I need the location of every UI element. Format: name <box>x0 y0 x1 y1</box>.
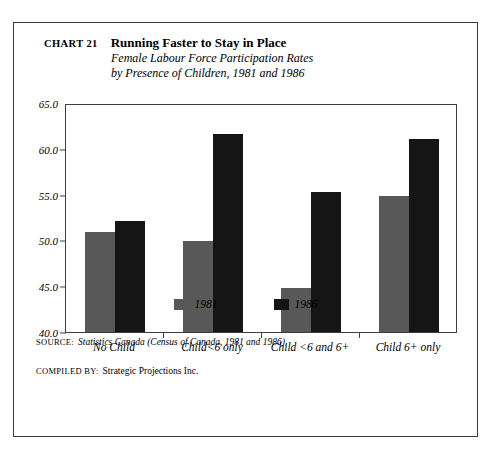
y-axis-tick-mark <box>60 241 66 242</box>
y-axis-tick-label: 60.0 <box>39 144 58 156</box>
y-axis-tick-mark <box>60 195 66 196</box>
y-axis-tick-mark <box>60 149 66 150</box>
chart-figure: CHART 21 Running Faster to Stay in Place… <box>13 22 478 437</box>
y-axis-tick-label: 50.0 <box>39 235 58 247</box>
title-line: CHART 21 Running Faster to Stay in Place <box>44 35 463 51</box>
legend-item-1986: 1986 <box>274 298 318 310</box>
chart-number: CHART 21 <box>44 38 98 49</box>
footnote-body: Statistics Canada (Census of Canada, 198… <box>78 337 287 347</box>
bar-1986-child-6-and-6- <box>311 192 341 332</box>
bar-1981-child-6-only <box>379 196 409 332</box>
legend-label: 1981 <box>195 298 218 310</box>
footnote-row: Source: Statistics Canada (Census of Can… <box>36 331 463 349</box>
chart-title: Running Faster to Stay in Place <box>111 35 287 51</box>
bar-1981-child-6-and-6- <box>281 288 311 332</box>
y-axis-tick-label: 55.0 <box>39 190 58 202</box>
bar-1981-child-6-only <box>183 241 213 332</box>
chart-subtitle-line-1: Female Labour Force Participation Rates <box>111 51 463 66</box>
legend-swatch-icon <box>174 299 189 310</box>
y-axis-tick-mark <box>60 287 66 288</box>
footnotes: Source: Statistics Canada (Census of Can… <box>36 331 463 389</box>
bar-1986-no-child <box>115 221 145 332</box>
footnote-label: Compiled by: <box>36 366 99 376</box>
footnote-row: Compiled by: Strategic Projections Inc. <box>36 360 463 378</box>
legend-item-1981: 1981 <box>174 298 218 310</box>
title-block: CHART 21 Running Faster to Stay in Place… <box>44 35 463 82</box>
footnote-label: Source: <box>36 337 74 347</box>
y-axis-tick-label: 65.0 <box>39 98 58 110</box>
chart-subtitle-line-2: by Presence of Children, 1981 and 1986 <box>111 66 463 81</box>
y-axis-tick-label: 45.0 <box>39 281 58 293</box>
legend-swatch-icon <box>274 299 289 310</box>
footnote-body: Strategic Projections Inc. <box>103 366 199 376</box>
bar-1981-no-child <box>85 232 115 332</box>
legend-label: 1986 <box>295 298 318 310</box>
chart-legend: 19811986 <box>14 298 477 310</box>
